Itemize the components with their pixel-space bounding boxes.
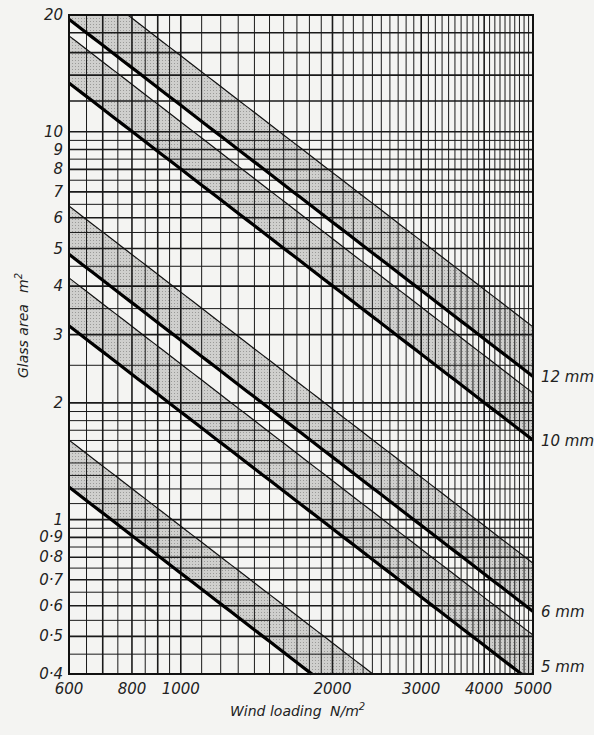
x-axis-tick-labels: 60080010002000300040005000 (55, 680, 552, 698)
x-tick-label: 5000 (514, 680, 552, 698)
y-tick-label: 20 (44, 6, 63, 24)
x-tick-label: 4000 (465, 680, 503, 698)
y-axis-unit: m2 (13, 273, 31, 293)
series-label: 12 mm (541, 368, 594, 386)
y-tick-label: 3 (53, 326, 63, 344)
series-labels: 12 mm10 mm6 mm5 mm (541, 368, 594, 676)
x-tick-label: 800 (118, 680, 147, 698)
series-label: 10 mm (541, 432, 594, 450)
thick-line-12-mm (69, 19, 533, 376)
band-6-mm (69, 206, 533, 611)
y-tick-label: 10 (44, 123, 63, 141)
series-label: 5 mm (541, 658, 585, 676)
y-tick-label: 1 (53, 511, 63, 529)
series-label: 6 mm (541, 603, 585, 621)
y-tick-label: 8 (53, 160, 63, 178)
y-tick-label: 0·8 (39, 548, 63, 566)
y-tick-label: 0·9 (39, 528, 63, 546)
x-tick-label: 2000 (313, 680, 351, 698)
y-tick-label: 9 (53, 141, 63, 159)
x-axis-unit: N/m2 (330, 701, 365, 719)
y-tick-label: 4 (53, 277, 63, 295)
glass-area-vs-wind-loading-chart: 20109876543210·90·80·70·60·50·4 60080010… (0, 0, 594, 735)
x-axis-label: Wind loading (230, 703, 322, 719)
y-tick-label: 6 (53, 209, 63, 227)
y-tick-label: 5 (53, 240, 63, 258)
y-tick-label: 0·6 (39, 597, 63, 615)
y-tick-label: 0·5 (39, 627, 63, 645)
y-tick-label: 7 (53, 183, 63, 201)
y-tick-label: 0·7 (39, 571, 63, 589)
x-tick-label: 3000 (402, 680, 440, 698)
y-axis-tick-labels: 20109876543210·90·80·70·60·50·4 (39, 6, 63, 683)
y-tick-label: 2 (53, 394, 63, 412)
thin-line-5-mm (69, 278, 533, 635)
thick-line-unlabeled-(thinnest) (69, 487, 312, 674)
shaded-bands (69, 15, 533, 674)
x-tick-label: 1000 (162, 680, 200, 698)
y-axis-label: Glass area (15, 304, 31, 378)
x-tick-label: 600 (55, 680, 84, 698)
y-axis-label-group: Glass area m2 (13, 273, 31, 378)
